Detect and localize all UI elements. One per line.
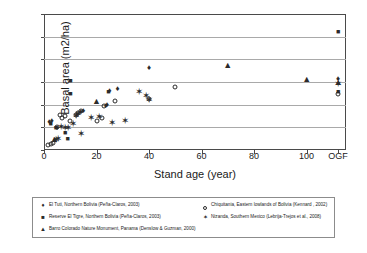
star-marker-icon: ✶ (121, 116, 129, 126)
gridline (44, 105, 346, 106)
diamond-marker-icon: ♦ (147, 64, 151, 72)
x-tick-mark (202, 150, 203, 154)
x-tick-mark (149, 150, 150, 154)
legend-item-label: Barro Colorado Nature Monument, Panama (… (47, 226, 196, 232)
y-tick-mark (41, 82, 44, 83)
plot-area: 0102030405060 020406080100OGF ♦♦♦♦♦♦♦♦♦♦… (44, 14, 346, 150)
star-marker-icon: ✶ (95, 112, 103, 122)
legend-item: ▲Barro Colorado Nature Monument, Panama … (39, 226, 196, 232)
x-tick-mark (254, 150, 255, 154)
x-tick-mark (97, 150, 98, 154)
x-axis-title: Stand age (year) (44, 168, 346, 180)
y-tick-mark (41, 127, 44, 128)
triangle-marker-icon: ▲ (223, 61, 232, 70)
legend-item-label: El Tuti, Northern Bolivia (Peña-Claros, … (47, 202, 140, 208)
square-marker-icon: ■ (106, 88, 110, 95)
triangle-marker-icon: ▲ (302, 75, 311, 84)
legend-item: Chiquitania, Eastern lowlands of Bolivia… (201, 202, 327, 208)
square-legend-icon: ■ (39, 214, 47, 220)
y-tick-mark (41, 37, 44, 38)
square-marker-icon: ■ (48, 119, 52, 126)
star-marker-icon: ✶ (87, 113, 95, 123)
gridline (44, 82, 346, 83)
gridline (44, 37, 346, 38)
star-marker-icon: ✶ (145, 95, 153, 105)
legend-item: ■Reserve El Tigre, Northern Bolivia (Peñ… (39, 214, 161, 220)
circle-marker-icon (173, 84, 178, 89)
x-tick-mark (307, 150, 308, 154)
y-tick-mark (41, 14, 44, 15)
x-tick-mark (338, 150, 339, 154)
diamond-marker-icon: ♦ (115, 85, 119, 93)
chart-legend: ♦El Tuti, Northern Bolivia (Peña-Claros,… (32, 197, 335, 238)
gridline (44, 59, 346, 60)
y-tick-mark (41, 59, 44, 60)
star-marker-icon: ✶ (74, 109, 82, 119)
star-marker-icon: ✶ (334, 79, 342, 89)
y-tick-mark (41, 105, 44, 106)
legend-item: ✶Nizanda, Southern Mexico (Lebrija-Trejo… (201, 214, 321, 220)
y-axis-title: Basal area (m2/ha) (59, 0, 71, 138)
legend-item: ♦El Tuti, Northern Bolivia (Peña-Claros,… (39, 202, 140, 208)
circle-marker-icon (112, 99, 117, 104)
gridline (44, 127, 346, 128)
gridline (44, 14, 346, 15)
diamond-legend-icon: ♦ (39, 202, 47, 208)
basal-area-scatter-figure: 0102030405060 020406080100OGF ♦♦♦♦♦♦♦♦♦♦… (0, 0, 367, 253)
x-tick-mark (44, 150, 45, 154)
circle-marker-icon (336, 92, 341, 97)
legend-item-label: Reserve El Tigre, Northern Bolivia (Peña… (47, 214, 161, 220)
star-marker-icon: ✶ (108, 118, 116, 128)
square-marker-icon: ■ (336, 28, 340, 35)
star-marker-icon: ✶ (135, 87, 143, 97)
triangle-marker-icon: ▲ (92, 97, 101, 106)
star-legend-icon: ✶ (201, 214, 209, 220)
star-marker-icon: ✶ (77, 129, 85, 139)
legend-item-label: Nizanda, Southern Mexico (Lebrija-Trejos… (209, 214, 321, 220)
triangle-legend-icon: ▲ (39, 226, 47, 232)
circle-marker-icon (102, 104, 107, 109)
legend-item-label: Chiquitania, Eastern lowlands of Bolivia… (209, 202, 327, 208)
